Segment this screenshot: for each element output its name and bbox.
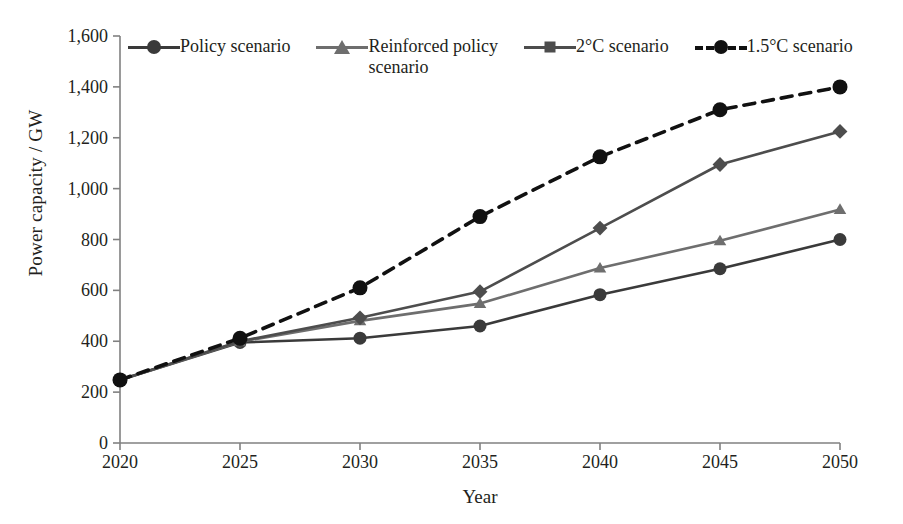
data-point-marker xyxy=(713,102,728,117)
data-point-marker xyxy=(833,124,848,139)
data-point-marker xyxy=(594,288,607,301)
data-point-marker xyxy=(834,203,847,214)
data-point-marker xyxy=(713,157,728,172)
series-3 xyxy=(113,124,848,387)
data-point-marker xyxy=(113,372,128,387)
legend-item-4[interactable]: 1.5°C scenario xyxy=(695,36,853,57)
data-point-marker xyxy=(714,262,727,275)
data-point-marker xyxy=(593,221,608,236)
x-axis-tick-label: 2045 xyxy=(680,452,760,473)
data-point-marker xyxy=(834,233,847,246)
legend-key-triangle-icon xyxy=(316,37,368,57)
x-axis-title: Year xyxy=(120,486,840,508)
y-axis-tick-label: 600 xyxy=(36,280,108,301)
legend-label: 1.5°C scenario xyxy=(747,36,853,57)
legend-item-1[interactable]: Policy scenario xyxy=(128,36,290,57)
legend-item-3[interactable]: 2°C scenario xyxy=(524,36,669,57)
legend-label: 2°C scenario xyxy=(576,36,669,57)
x-axis-tick-label: 2020 xyxy=(80,452,160,473)
y-axis-tick-label: 800 xyxy=(36,229,108,250)
data-point-marker xyxy=(593,149,608,164)
legend-key-diamond-icon xyxy=(524,37,576,57)
y-axis-tick-label: 400 xyxy=(36,331,108,352)
legend-marker-diamond-icon xyxy=(544,42,555,53)
legend-label: Reinforced policy scenario xyxy=(368,36,497,78)
y-axis-tick-label: 1,600 xyxy=(36,26,108,47)
x-axis-tick-label: 2025 xyxy=(200,452,280,473)
y-axis-tick-label: 200 xyxy=(36,382,108,403)
x-axis-tick-label: 2035 xyxy=(440,452,520,473)
y-axis-tick-label: 0 xyxy=(36,433,108,454)
legend-key-circle-icon xyxy=(695,37,747,57)
legend-marker-triangle-icon xyxy=(334,40,350,54)
y-axis-tick-label: 1,200 xyxy=(36,127,108,148)
chart-figure: Power capacity / GW Year 02004006008001,… xyxy=(0,0,903,524)
y-axis-tick-label: 1,400 xyxy=(36,76,108,97)
x-axis-tick-label: 2050 xyxy=(800,452,880,473)
x-axis-tick-label: 2030 xyxy=(320,452,400,473)
data-point-marker xyxy=(473,209,488,224)
chart-legend: Policy scenarioReinforced policy scenari… xyxy=(128,36,888,88)
data-point-marker xyxy=(354,332,367,345)
y-axis-tick-label: 1,000 xyxy=(36,178,108,199)
legend-marker-circle-icon xyxy=(714,40,728,54)
legend-item-2[interactable]: Reinforced policy scenario xyxy=(316,36,497,78)
legend-key-circle-icon xyxy=(128,37,180,57)
legend-label: Policy scenario xyxy=(180,36,290,57)
data-point-marker xyxy=(473,284,488,299)
legend-marker-circle-icon xyxy=(147,40,161,54)
x-axis-tick-label: 2040 xyxy=(560,452,640,473)
series-1 xyxy=(114,233,847,386)
data-point-marker xyxy=(233,331,248,346)
data-point-marker xyxy=(353,280,368,295)
data-point-marker xyxy=(474,319,487,332)
series-4 xyxy=(113,79,848,387)
